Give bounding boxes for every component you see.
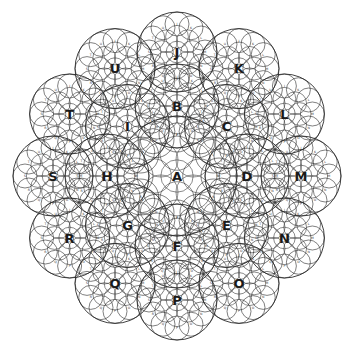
subcircle-label: U: [54, 88, 57, 92]
cluster-label-u: U: [110, 61, 121, 76]
subcircle-label: S: [77, 174, 79, 178]
subcircle-label: M: [275, 174, 278, 178]
subcircle-label: S: [86, 281, 88, 285]
subcircle-label: U: [269, 212, 272, 216]
subcircle-label: M: [156, 125, 159, 129]
subcircle-label: N: [251, 238, 254, 242]
subcircle-label: J: [176, 132, 178, 136]
subcircle-label: S: [41, 236, 43, 240]
subcircle-label: L: [308, 222, 310, 226]
subcircle-label: S: [148, 298, 150, 302]
subcircle-label: L: [138, 267, 140, 271]
cluster-label-l: L: [280, 107, 288, 122]
subcircle-label: S: [97, 223, 99, 227]
subcircle-label: U: [100, 42, 103, 46]
subcircle-label: L: [212, 153, 214, 157]
subcircle-label: M: [80, 174, 83, 178]
subcircle-label: T: [199, 110, 202, 114]
subcircle-label: T: [27, 160, 30, 164]
subcircle-label: Q: [38, 198, 41, 202]
subcircle-label: L: [200, 36, 202, 40]
subcircle-label: O: [297, 260, 300, 264]
subcircle-label: S: [86, 67, 88, 71]
subcircle-label: T: [43, 222, 46, 226]
cluster-label-m: M: [295, 169, 308, 184]
subcircle-label: S: [41, 112, 43, 116]
subcircle-label: K: [261, 149, 264, 153]
cluster-label-p: P: [172, 293, 182, 308]
subcircle-label: O: [82, 260, 85, 264]
circle-cluster-diagram: JKLMNOPQRSTUJJKLMNOPQRSTUKJKLMNOPQRSTULJ…: [0, 0, 354, 354]
cluster-label-s: S: [48, 169, 57, 184]
cluster-label-c: C: [222, 119, 232, 134]
subcircle-label: K: [128, 42, 131, 46]
subcircle-label: K: [314, 150, 317, 154]
subcircle-label: T: [151, 36, 154, 40]
subcircle-label: S: [196, 125, 198, 129]
subcircle-label: N: [212, 195, 215, 199]
subcircle-label: N: [138, 295, 141, 299]
subcircle-label: T: [213, 53, 216, 57]
subcircle-label: M: [311, 236, 314, 240]
subcircle-label: U: [155, 138, 158, 142]
subcircle-label: M: [311, 112, 314, 116]
subcircle-label: M: [255, 223, 258, 227]
subcircle-label: K: [190, 26, 193, 30]
subcircle-label: U: [112, 99, 115, 103]
subcircle-label: K: [240, 198, 243, 202]
subcircle-label: Q: [112, 249, 115, 253]
cluster-label-i: I: [125, 119, 130, 134]
subcircle-label: N: [200, 64, 203, 68]
subcircle-label: L: [138, 53, 140, 57]
subcircle-label: L: [324, 160, 326, 164]
subcircle-label: S: [210, 281, 212, 285]
subcircle-label: O: [128, 306, 131, 310]
subcircle-label: M: [142, 67, 145, 71]
subcircle-label: S: [24, 174, 26, 178]
subcircle-label: R: [28, 188, 31, 192]
subcircle-label: O: [82, 136, 85, 140]
subcircle-label: M: [204, 50, 207, 54]
cluster-label-h: H: [102, 169, 113, 184]
subcircle-label: L: [93, 222, 95, 226]
cluster-label-e: E: [222, 218, 231, 233]
subcircle-label: Q: [162, 322, 165, 326]
subcircle-label: U: [161, 79, 164, 83]
subcircle-label: T: [258, 222, 261, 226]
subcircle-label: L: [152, 110, 154, 114]
subcircle-label: O: [128, 91, 131, 95]
cluster-label-r: R: [65, 231, 75, 246]
subcircle-label: R: [214, 81, 217, 85]
subcircle-label: O: [66, 198, 69, 202]
subcircle-label: T: [139, 153, 142, 157]
subcircle-label: L: [262, 267, 264, 271]
subcircle-label: M: [328, 174, 331, 178]
subcircle-label: K: [191, 79, 194, 83]
subcircle-label: T: [89, 267, 92, 271]
cluster-label-k: K: [234, 61, 245, 76]
subcircle-label: Q: [269, 136, 272, 140]
subcircle-label: N: [262, 295, 265, 299]
subcircle-label: T: [220, 159, 223, 163]
subcircle-label: U: [162, 26, 165, 30]
subcircle-label: M: [204, 298, 207, 302]
subcircle-label: Q: [155, 210, 158, 214]
subcircle-label: K: [297, 88, 300, 92]
subcircle-label: R: [80, 189, 83, 193]
subcircle-label: M: [205, 244, 208, 248]
subcircle-label: T: [89, 53, 92, 57]
subcircle-label: L: [251, 110, 253, 114]
subcircle-label: M: [156, 223, 159, 227]
cluster-label-b: B: [172, 99, 182, 114]
subcircle-label: N: [138, 81, 141, 85]
subcircle-label: Q: [100, 306, 103, 310]
subcircle-label: N: [262, 81, 265, 85]
subcircle-label: M: [255, 125, 258, 129]
diagram-canvas: JKLMNOPQRSTUJJKLMNOPQRSTUKJKLMNOPQRSTULJ…: [0, 0, 354, 354]
subcircle-label: T: [151, 284, 154, 288]
subcircle-label: K: [83, 88, 86, 92]
subcircle-label: M: [266, 67, 269, 71]
subcircle-label: S: [148, 50, 150, 54]
subcircle-label: O: [190, 322, 193, 326]
subcircle-label: L: [308, 98, 310, 102]
